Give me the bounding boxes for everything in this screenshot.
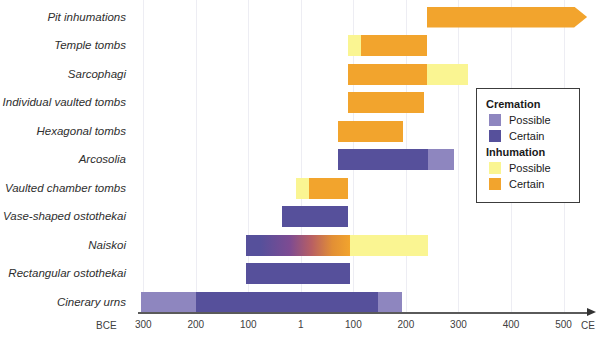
category-label: Temple tombs bbox=[0, 35, 132, 56]
x-tick-label: 400 bbox=[503, 319, 520, 330]
legend-item-label: Possible bbox=[509, 162, 551, 174]
x-tick-label: 200 bbox=[187, 319, 204, 330]
bar-segment-inhumation-possible bbox=[350, 235, 428, 256]
burial-practices-timeline-chart: Pit inhumationsTemple tombsSarcophagiInd… bbox=[0, 0, 605, 344]
bar-segment-inhumation-certain bbox=[348, 64, 427, 85]
bar-segment-cremation-certain bbox=[282, 206, 348, 227]
cremation-certain-swatch-icon bbox=[489, 130, 501, 142]
legend-section-title: Inhumation bbox=[486, 146, 570, 158]
era-label-bce: BCE bbox=[96, 320, 117, 331]
inhumation-certain-swatch-icon bbox=[489, 178, 501, 190]
category-label: Naiskoi bbox=[0, 235, 132, 256]
bar-segment-inhumation-certain bbox=[338, 121, 404, 142]
category-label: Sarcophagi bbox=[0, 64, 132, 85]
gridline bbox=[196, 0, 197, 313]
category-label: Arcosolia bbox=[0, 149, 132, 170]
x-tick-label: 1 bbox=[298, 319, 304, 330]
x-axis-tick-labels: 3002001001100200300400500 bbox=[138, 319, 605, 335]
bar-segment-cremation-possible bbox=[428, 149, 454, 170]
bar-segment-inhumation-possible bbox=[427, 64, 468, 85]
inhumation-possible-swatch-icon bbox=[489, 162, 501, 174]
cremation-possible-swatch-icon bbox=[489, 114, 501, 126]
bar-segment-inhumation-certain bbox=[361, 35, 427, 56]
bar-segment-inhumation-certain bbox=[309, 178, 348, 199]
bar-segment-cremation-certain bbox=[338, 149, 428, 170]
category-label: Pit inhumations bbox=[0, 7, 132, 28]
era-label-ce: CE bbox=[581, 320, 595, 331]
bar-segment-inhumation-certain bbox=[427, 7, 587, 28]
legend-item-label: Certain bbox=[509, 178, 544, 190]
category-label: Vase-shaped ostothekai bbox=[0, 206, 132, 227]
category-labels: Pit inhumationsTemple tombsSarcophagiInd… bbox=[0, 0, 132, 313]
bar-segment-cremation-certain bbox=[246, 263, 350, 284]
legend-section-title: Cremation bbox=[486, 98, 570, 110]
gridline bbox=[143, 0, 144, 313]
x-tick-label: 300 bbox=[135, 319, 152, 330]
bar-segment-cremation-certain bbox=[196, 292, 378, 313]
legend-item: Certain bbox=[489, 130, 570, 142]
legend-item: Certain bbox=[489, 178, 570, 190]
category-label: Vaulted chamber tombs bbox=[0, 178, 132, 199]
category-label: Cinerary urns bbox=[0, 292, 132, 313]
x-axis-line bbox=[138, 312, 588, 314]
x-tick-label: 500 bbox=[555, 319, 572, 330]
category-label: Individual vaulted tombs bbox=[0, 92, 132, 113]
bar-segment-cremation-possible bbox=[378, 292, 402, 313]
legend-item-label: Certain bbox=[509, 130, 544, 142]
legend: CremationPossibleCertainInhumationPossib… bbox=[476, 88, 580, 203]
legend-item: Possible bbox=[489, 162, 570, 174]
x-axis-arrowhead-icon bbox=[587, 308, 596, 316]
bar-segment-cremation-to-inhumation-gradient bbox=[246, 235, 350, 256]
bar-segment-inhumation-certain bbox=[348, 92, 424, 113]
legend-item-label: Possible bbox=[509, 114, 551, 126]
bar-segment-cremation-possible bbox=[141, 292, 196, 313]
x-tick-label: 100 bbox=[240, 319, 257, 330]
x-tick-label: 200 bbox=[398, 319, 415, 330]
x-tick-label: 300 bbox=[450, 319, 467, 330]
legend-item: Possible bbox=[489, 114, 570, 126]
category-label: Hexagonal tombs bbox=[0, 121, 132, 142]
x-tick-label: 100 bbox=[345, 319, 362, 330]
gridline bbox=[458, 0, 459, 313]
category-label: Rectangular ostothekai bbox=[0, 263, 132, 284]
bar-segment-inhumation-possible bbox=[348, 35, 361, 56]
bar-segment-inhumation-possible bbox=[296, 178, 309, 199]
